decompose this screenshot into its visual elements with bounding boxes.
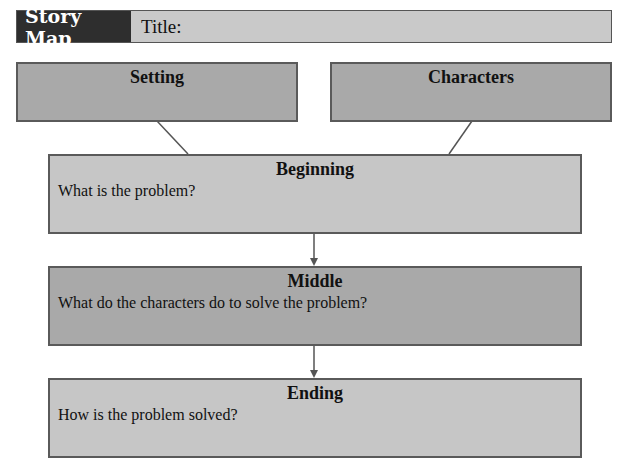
ending-prompt: How is the problem solved? xyxy=(58,406,580,424)
middle-box[interactable]: Middle What do the characters do to solv… xyxy=(48,266,582,346)
beginning-heading: Beginning xyxy=(50,156,580,180)
ending-box[interactable]: Ending How is the problem solved? xyxy=(48,378,582,458)
middle-heading: Middle xyxy=(50,268,580,292)
story-map-label: Story Map xyxy=(17,11,131,42)
header-bar: Story Map Title: xyxy=(16,10,612,43)
setting-box[interactable]: Setting xyxy=(16,62,298,122)
characters-heading: Characters xyxy=(332,64,610,88)
characters-box[interactable]: Characters xyxy=(330,62,612,122)
beginning-box[interactable]: Beginning What is the problem? xyxy=(48,154,582,234)
beginning-prompt: What is the problem? xyxy=(58,182,580,200)
setting-heading: Setting xyxy=(18,64,296,88)
middle-prompt: What do the characters do to solve the p… xyxy=(58,294,580,312)
ending-heading: Ending xyxy=(50,380,580,404)
title-field[interactable]: Title: xyxy=(131,11,192,42)
